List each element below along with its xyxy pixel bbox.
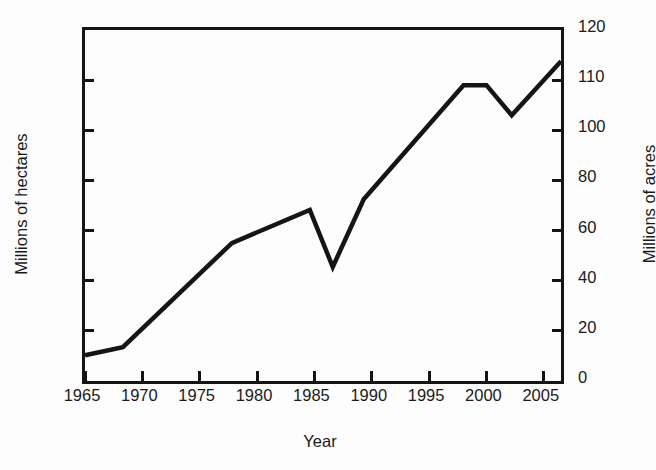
x-axis-tick <box>370 371 373 381</box>
x-axis-tick-label: 2005 <box>506 386 576 405</box>
y-axis-tick-label-right: 60 <box>578 218 638 237</box>
y-axis-title-right: Millions of acres <box>638 28 656 380</box>
x-axis-tick <box>428 371 431 381</box>
y-axis-tick-left <box>85 229 94 232</box>
y-axis-tick-right <box>552 79 561 82</box>
x-axis-tick <box>313 371 316 381</box>
data-line-svg <box>85 30 561 381</box>
y-axis-tick-left <box>85 129 94 132</box>
y-axis-tick-label-right: 120 <box>578 17 638 36</box>
y-axis-tick-label-right: 20 <box>578 318 638 337</box>
y-axis-tick-left <box>85 279 94 282</box>
y-axis-title-left: Millions of hectares <box>10 28 32 380</box>
x-axis-tick <box>256 371 259 381</box>
plot-area <box>82 27 564 384</box>
x-axis-tick <box>84 371 87 381</box>
x-axis-tick <box>485 371 488 381</box>
y-axis-tick-left <box>85 79 94 82</box>
x-axis-title: Year <box>82 432 558 451</box>
y-axis-tick-right <box>552 129 561 132</box>
y-axis-tick-left <box>85 179 94 182</box>
data-series-line <box>85 61 561 355</box>
y-axis-tick-label-right: 110 <box>578 67 638 86</box>
y-axis-tick-label-right: 80 <box>578 167 638 186</box>
y-axis-tick-label-right: 100 <box>578 117 638 136</box>
x-axis-tick <box>198 371 201 381</box>
y-axis-tick-right <box>552 179 561 182</box>
y-axis-tick-label-right: 40 <box>578 268 638 287</box>
y-axis-tick-label-right: 0 <box>578 368 638 387</box>
y-axis-tick-right <box>552 229 561 232</box>
x-axis-tick <box>542 371 545 381</box>
y-axis-tick-right <box>552 279 561 282</box>
y-axis-tick-right <box>552 329 561 332</box>
x-axis-tick <box>141 371 144 381</box>
chart-figure: Millions of hectares Millions of acres Y… <box>0 0 656 470</box>
y-axis-tick-left <box>85 329 94 332</box>
